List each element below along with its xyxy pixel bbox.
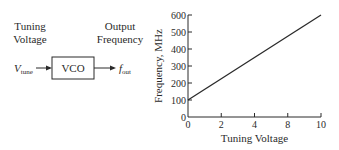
x-axis-label: Tuning Voltage bbox=[221, 132, 288, 144]
svg-text:600: 600 bbox=[171, 10, 186, 21]
x-tick-labels: 0 2 4 8 10 bbox=[186, 119, 327, 130]
svg-text:200: 200 bbox=[171, 78, 186, 89]
svg-text:10: 10 bbox=[316, 119, 326, 130]
x-ticks bbox=[221, 113, 321, 117]
vco-label: VCO bbox=[61, 62, 84, 74]
svg-text:2: 2 bbox=[219, 119, 224, 130]
svg-text:0: 0 bbox=[186, 119, 191, 130]
svg-text:100: 100 bbox=[171, 95, 186, 106]
y-axis-label: Frequency, MHz bbox=[152, 29, 164, 103]
vco-characteristic-line bbox=[188, 15, 321, 100]
block-diagram: VCO Vtune fout bbox=[0, 0, 170, 150]
svg-text:400: 400 bbox=[171, 44, 186, 55]
output-arrowhead-icon bbox=[110, 66, 116, 71]
output-signal-label: fout bbox=[119, 62, 131, 76]
y-ticks bbox=[188, 15, 192, 100]
svg-text:300: 300 bbox=[171, 61, 186, 72]
input-signal-label: Vtune bbox=[14, 62, 33, 76]
svg-text:4: 4 bbox=[252, 119, 257, 130]
y-tick-labels: 600 500 400 300 200 100 0 bbox=[171, 10, 186, 123]
input-arrowhead-icon bbox=[46, 66, 52, 71]
frequency-chart: Frequency, MHz 600 500 400 300 200 100 0… bbox=[150, 0, 339, 150]
svg-text:500: 500 bbox=[171, 27, 186, 38]
svg-text:8: 8 bbox=[285, 119, 290, 130]
